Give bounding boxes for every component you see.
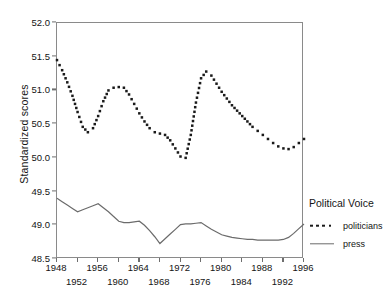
- y-tick-label: 49.5: [0, 185, 50, 196]
- plot-area: [56, 22, 303, 258]
- x-tick-label: 1972: [169, 262, 190, 273]
- x-tick-mark: [159, 258, 160, 262]
- y-tick-label: 52.0: [0, 17, 50, 28]
- x-tick-label: 1996: [292, 262, 313, 273]
- series-line-press: [57, 198, 304, 243]
- legend-item-press[interactable]: press: [309, 236, 369, 251]
- legend-item-politicians[interactable]: politicians: [309, 218, 369, 233]
- y-tick-label: 48.5: [0, 253, 50, 264]
- x-tick-label: 1952: [66, 276, 87, 287]
- series-layer: [57, 23, 304, 259]
- x-tick-label: 1960: [107, 276, 128, 287]
- x-tick-mark: [282, 258, 283, 262]
- legend-title: Political Voice: [309, 197, 369, 209]
- x-tick-label: 1976: [190, 276, 211, 287]
- x-tick-label: 1992: [272, 276, 293, 287]
- solid-line-swatch-icon: [309, 239, 337, 249]
- x-tick-label: 1964: [128, 262, 149, 273]
- y-axis-title: Standardized scores: [18, 44, 30, 224]
- y-tick-mark: [52, 123, 56, 124]
- x-tick-label: 1980: [210, 262, 231, 273]
- x-tick-label: 1984: [231, 276, 252, 287]
- series-dots-politicians: [56, 59, 306, 159]
- x-tick-mark: [200, 258, 201, 262]
- y-tick-label: 49.0: [0, 219, 50, 230]
- y-tick-mark: [52, 55, 56, 56]
- x-tick-label: 1968: [148, 276, 169, 287]
- x-tick-mark: [241, 258, 242, 262]
- x-tick-mark: [118, 258, 119, 262]
- legend-item-label: politicians: [343, 221, 383, 231]
- y-tick-mark: [52, 224, 56, 225]
- y-tick-label: 51.0: [0, 84, 50, 95]
- x-tick-label: 1988: [251, 262, 272, 273]
- y-tick-label: 51.5: [0, 50, 50, 61]
- legend-item-label: press: [343, 239, 365, 249]
- y-tick-mark: [52, 89, 56, 90]
- y-tick-mark: [52, 190, 56, 191]
- x-tick-label: 1948: [45, 262, 66, 273]
- y-tick-label: 50.5: [0, 118, 50, 129]
- y-tick-mark: [52, 156, 56, 157]
- legend: Political Voice politicians press: [309, 197, 369, 254]
- y-tick-label: 50.0: [0, 151, 50, 162]
- y-tick-mark: [52, 21, 56, 22]
- x-tick-label: 1956: [87, 262, 108, 273]
- x-tick-mark: [77, 258, 78, 262]
- dotted-line-swatch-icon: [309, 221, 337, 231]
